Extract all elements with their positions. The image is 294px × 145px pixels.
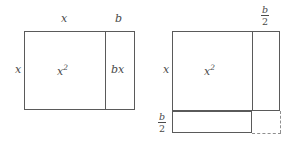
right-top-band-rectangle — [172, 31, 280, 111]
figure-canvas: x b x x2 bx b 2 x b 2 — [0, 0, 294, 145]
right-top-fraction-denominator: 2 — [261, 17, 269, 27]
right-vertical-divider — [252, 31, 253, 111]
right-top-fraction-numerator: b — [261, 5, 269, 15]
right-bottom-left-rectangle — [172, 111, 252, 133]
left-vertical-divider — [105, 31, 106, 110]
left-region-label-bx: bx — [111, 64, 124, 75]
right-x-squared-exponent: 2 — [210, 63, 215, 72]
right-bottom-fraction-denominator: 2 — [158, 124, 166, 134]
left-top-label-b: b — [115, 13, 122, 24]
right-region-label-x-squared: x2 — [204, 64, 215, 77]
right-top-fraction-b-over-2: b 2 — [261, 5, 269, 26]
right-dashed-vertical-edge — [280, 111, 281, 133]
right-bottom-fraction-b-over-2: b 2 — [158, 112, 166, 133]
left-region-label-x-squared: x2 — [57, 64, 68, 77]
right-side-label-x: x — [163, 64, 169, 75]
left-side-label-x: x — [15, 64, 21, 75]
left-top-label-x: x — [61, 13, 67, 24]
right-bottom-fraction-numerator: b — [158, 112, 166, 122]
right-dashed-bottom-edge — [252, 133, 281, 134]
left-x-squared-exponent: 2 — [63, 63, 68, 72]
